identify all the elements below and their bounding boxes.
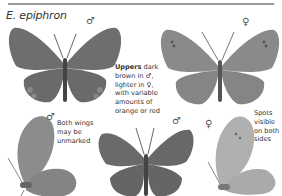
- butterfly-upperside-male-2-figure: [96, 124, 196, 196]
- note-line: Spots: [254, 109, 279, 118]
- note-line: brown in ♂,: [115, 72, 160, 81]
- spots-note: Spots visible on both sides: [254, 109, 279, 144]
- note-line: orange or red: [115, 107, 160, 116]
- butterfly-upperside-female-figure: [160, 26, 280, 102]
- note-line: sides: [254, 135, 279, 144]
- note-line: visible: [254, 118, 279, 127]
- uppers-note-bold: Uppers: [115, 63, 141, 71]
- butterfly-upperside-male-figure: [6, 22, 124, 102]
- female-symbol: ♀: [205, 119, 212, 129]
- male-symbol: ♂: [172, 116, 181, 126]
- note-line: Both wings: [57, 119, 93, 128]
- note-line: on both: [254, 127, 279, 136]
- female-symbol: ♀: [242, 17, 249, 27]
- male-symbol: ♂: [86, 16, 95, 26]
- both-wings-note: Both wings may be unmarked: [57, 119, 93, 145]
- note-line: amounts of: [115, 98, 160, 107]
- uppers-note: Uppers dark brown in ♂, lighter in ♀, wi…: [115, 63, 160, 116]
- species-title: E. epiphron: [6, 9, 67, 22]
- note-line: may be: [57, 128, 93, 137]
- note-line: unmarked: [57, 137, 93, 146]
- header-rule: [8, 3, 274, 5]
- male-symbol: ♂: [46, 112, 55, 122]
- note-line: dark: [141, 63, 158, 71]
- note-line: lighter in ♀,: [115, 81, 160, 90]
- note-line: with variable: [115, 89, 160, 98]
